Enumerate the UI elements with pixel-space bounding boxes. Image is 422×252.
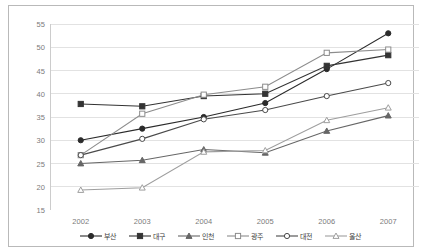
data-point-open-circle	[324, 93, 329, 98]
data-point-filled-square	[324, 63, 329, 68]
y-axis-tick-label: 55	[36, 20, 45, 29]
data-point-filled-square	[137, 233, 142, 238]
data-point-open-square	[263, 84, 268, 89]
chart-legend: 부산대구인천광주대전울산	[17, 231, 422, 241]
series-canvas	[50, 24, 419, 210]
x-axis-tick-label: 2003	[134, 217, 151, 226]
legend-marker-icon	[80, 231, 102, 241]
data-point-open-circle	[78, 153, 83, 158]
legend-item[interactable]: 울산	[325, 231, 361, 241]
data-point-open-square	[235, 233, 240, 238]
data-point-open-square	[386, 47, 391, 52]
data-point-filled-circle	[88, 233, 93, 238]
legend-marker-icon	[325, 231, 347, 241]
plot-area: 152025303540455055 200220032004200520062…	[50, 24, 419, 210]
series-line	[81, 108, 389, 190]
legend-item[interactable]: 인천	[178, 231, 214, 241]
legend-item[interactable]: 대전	[276, 231, 312, 241]
x-axis-tick-label: 2006	[318, 217, 335, 226]
legend-marker-icon	[178, 231, 200, 241]
chart-frame: 152025303540455055 200220032004200520062…	[8, 5, 414, 247]
y-axis-tick-label: 40	[36, 89, 45, 98]
legend-marker-icon	[276, 231, 298, 241]
data-point-filled-square	[78, 101, 83, 106]
legend-item[interactable]: 광주	[227, 231, 263, 241]
data-point-open-circle	[386, 80, 391, 85]
data-point-filled-circle	[386, 31, 391, 36]
data-point-open-circle	[284, 233, 289, 238]
series-line	[81, 116, 389, 164]
data-point-open-square	[324, 50, 329, 55]
legend-label: 부산	[104, 231, 116, 241]
series-line	[81, 55, 389, 106]
legend-label: 인천	[202, 231, 214, 241]
legend-item[interactable]: 대구	[129, 231, 165, 241]
legend-marker-icon	[129, 231, 151, 241]
chart-figure: 152025303540455055 200220032004200520062…	[0, 0, 422, 252]
legend-label: 대전	[300, 231, 312, 241]
y-axis-tick-label: 45	[36, 66, 45, 75]
y-axis-tick-label: 50	[36, 43, 45, 52]
y-axis-tick-label: 20	[36, 182, 45, 191]
x-axis-tick-label: 2004	[195, 217, 212, 226]
data-point-filled-circle	[140, 126, 145, 131]
data-point-filled-square	[140, 104, 145, 109]
data-point-open-triangle	[385, 105, 391, 110]
y-axis-tick-label: 15	[36, 206, 45, 215]
legend-marker-icon	[227, 231, 249, 241]
data-point-filled-circle	[263, 100, 268, 105]
legend-label: 울산	[349, 231, 361, 241]
y-axis-tick-label: 25	[36, 159, 45, 168]
legend-item[interactable]: 부산	[80, 231, 116, 241]
data-point-filled-square	[263, 91, 268, 96]
data-point-open-square	[201, 92, 206, 97]
data-point-open-square	[140, 111, 145, 116]
data-point-filled-triangle	[385, 113, 391, 118]
y-axis-tick-label: 35	[36, 113, 45, 122]
data-point-filled-circle	[78, 138, 83, 143]
y-axis-tick-label: 30	[36, 136, 45, 145]
data-point-open-circle	[263, 107, 268, 112]
x-axis-tick-label: 2007	[380, 217, 397, 226]
data-point-open-circle	[140, 136, 145, 141]
x-axis-tick-label: 2005	[257, 217, 274, 226]
series-line	[81, 50, 389, 156]
legend-label: 대구	[153, 231, 165, 241]
legend-label: 광주	[251, 231, 263, 241]
data-point-filled-square	[386, 53, 391, 58]
x-axis-tick-label: 2002	[72, 217, 89, 226]
data-point-open-circle	[201, 117, 206, 122]
